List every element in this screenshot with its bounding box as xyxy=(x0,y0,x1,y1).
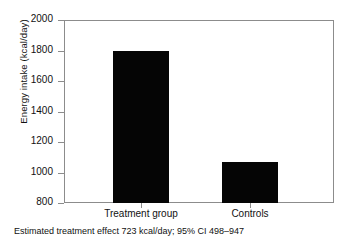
y-tick-label: 1000 xyxy=(31,166,53,177)
y-tick-label: 2000 xyxy=(31,13,53,24)
bar-chart-figure: Energy intake (kcal/day) 2000 1800 1600 … xyxy=(0,0,350,242)
x-tick-label-treatment-group: Treatment group xyxy=(104,208,178,219)
y-tick-label: 1400 xyxy=(31,105,53,116)
y-axis-title: Energy intake (kcal/day) xyxy=(18,0,29,157)
y-tick-label: 800 xyxy=(36,196,53,207)
plot-area xyxy=(64,20,334,203)
y-tick-label: 1600 xyxy=(31,74,53,85)
y-tick-mark xyxy=(58,203,64,204)
chart-caption: Estimated treatment effect 723 kcal/day;… xyxy=(14,226,244,236)
bar-treatment-group xyxy=(113,51,169,204)
bar-controls xyxy=(222,162,278,203)
y-tick-label: 1200 xyxy=(31,135,53,146)
x-tick-label-controls: Controls xyxy=(231,208,268,219)
y-tick-label: 1800 xyxy=(31,44,53,55)
